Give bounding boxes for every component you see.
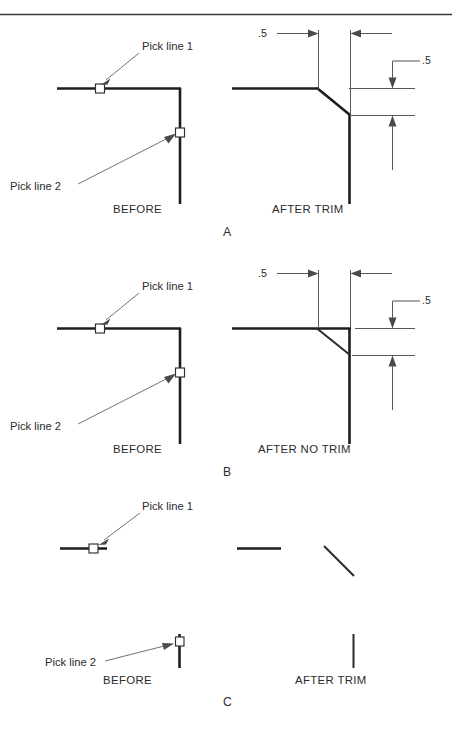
- dim-arrowhead-up: [389, 356, 397, 367]
- panel-c: Pick line 1 Pick line 2 BEFORE AFTER TRI…: [45, 500, 367, 709]
- leader-line-1: [104, 513, 140, 540]
- pick-box-1[interactable]: [96, 84, 105, 93]
- panel-letter-b: B: [223, 465, 231, 479]
- panel-b: Pick line 1 Pick line 2 BEFORE .5: [10, 267, 431, 479]
- dim-arrowhead-right: [308, 270, 319, 278]
- pick-line-1-label: Pick line 1: [142, 280, 193, 292]
- pick-line-1-label: Pick line 1: [142, 500, 193, 512]
- dimension-value-vertical: .5: [422, 294, 431, 306]
- dimension-value-horizontal: .5: [258, 27, 267, 39]
- panel-a: Pick line 1 Pick line 2 BEFORE: [10, 27, 431, 239]
- pick-line-1-label: Pick line 1: [142, 40, 193, 52]
- panel-b-before-drawing: Pick line 1 Pick line 2 BEFORE: [10, 280, 193, 455]
- pick-box-1[interactable]: [89, 544, 98, 553]
- leader-line-2: [78, 377, 170, 424]
- dim-arrowhead-down: [389, 78, 397, 89]
- panel-letter-c: C: [223, 695, 232, 709]
- leader-line-2: [105, 645, 168, 661]
- dim-arrowhead-right: [308, 30, 319, 38]
- chamfer-line: [317, 88, 350, 115]
- leader-arrowhead-2: [164, 134, 176, 144]
- dim-arrowhead-down: [389, 318, 397, 329]
- leader-line-1: [106, 53, 139, 80]
- before-caption: BEFORE: [103, 674, 152, 686]
- panel-c-before-drawing: Pick line 1 Pick line 2 BEFORE: [45, 500, 193, 686]
- dim-arrowhead-left: [351, 30, 362, 38]
- after-caption: AFTER TRIM: [272, 203, 344, 215]
- pick-box-1[interactable]: [96, 324, 105, 333]
- panel-a-after-drawing: .5 .5 AFTER TRIM: [232, 27, 431, 215]
- panel-a-before-drawing: Pick line 1 Pick line 2 BEFORE: [10, 40, 193, 215]
- leader-arrowhead-1: [101, 79, 111, 86]
- leader-arrowhead-1: [99, 539, 110, 546]
- panel-b-after-drawing: .5 .5 AFTER NO TRIM: [232, 267, 431, 455]
- leader-line-2: [78, 137, 170, 184]
- figure-root: Pick line 1 Pick line 2 BEFORE: [0, 0, 456, 730]
- pick-box-2[interactable]: [176, 128, 185, 137]
- dimension-value-horizontal: .5: [258, 267, 267, 279]
- chamfer-line: [317, 329, 350, 356]
- leader-line-1: [106, 293, 139, 320]
- leader-arrowhead-2: [164, 374, 176, 384]
- chamfer-line: [324, 546, 354, 576]
- dim-arrowhead-up: [389, 116, 397, 127]
- pick-line-2-label: Pick line 2: [45, 656, 96, 668]
- panel-c-after-drawing: AFTER TRIM: [237, 546, 367, 686]
- pick-line-2-label: Pick line 2: [10, 420, 61, 432]
- after-caption: AFTER NO TRIM: [258, 443, 351, 455]
- after-caption: AFTER TRIM: [295, 674, 367, 686]
- dim-arrowhead-left: [351, 270, 362, 278]
- panel-letter-a: A: [223, 225, 232, 239]
- dimension-value-vertical: .5: [422, 54, 431, 66]
- pick-line-2-label: Pick line 2: [10, 180, 61, 192]
- before-caption: BEFORE: [113, 203, 162, 215]
- chamfer-figure: Pick line 1 Pick line 2 BEFORE: [0, 0, 456, 730]
- before-caption: BEFORE: [113, 443, 162, 455]
- leader-arrowhead-2: [162, 643, 174, 650]
- pick-box-2[interactable]: [176, 637, 185, 646]
- pick-box-2[interactable]: [176, 368, 185, 377]
